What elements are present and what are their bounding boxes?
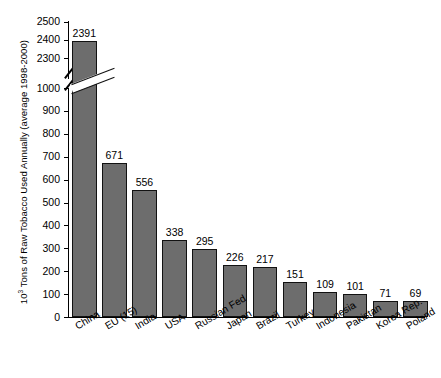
bar-chart: 103 Tons of Raw Tobacco Used Annually (a… xyxy=(0,0,441,378)
y-axis-tick-mark xyxy=(64,180,68,181)
y-axis-tick-mark xyxy=(64,58,68,59)
y-axis-line-lower xyxy=(68,88,69,318)
bar-value-label: 671 xyxy=(94,149,134,161)
y-axis-tick-label: 0 xyxy=(20,312,60,322)
y-axis-tick-label: 900 xyxy=(20,105,60,115)
bar-india[interactable] xyxy=(132,190,157,317)
y-axis-tick-mark xyxy=(64,40,68,41)
y-axis-tick-mark xyxy=(64,317,68,318)
bar-russian-fed[interactable] xyxy=(192,249,217,317)
y-axis-tick-mark xyxy=(64,157,68,158)
y-axis-tick-mark xyxy=(64,203,68,204)
y-axis-tick-label: 200 xyxy=(20,266,60,276)
y-axis-tick-label: 700 xyxy=(20,151,60,161)
y-axis-tick-mark xyxy=(64,22,68,23)
bar-usa[interactable] xyxy=(162,240,187,317)
bar-value-label: 295 xyxy=(185,235,225,247)
y-axis-tick-mark xyxy=(64,88,68,89)
y-axis-tick-label: 2400 xyxy=(20,34,60,44)
y-axis-tick-mark xyxy=(64,111,68,112)
bar-value-label: 556 xyxy=(124,176,164,188)
y-axis-tick-label: 100 xyxy=(20,289,60,299)
y-axis-tick-mark xyxy=(64,134,68,135)
bar-value-label: 2391 xyxy=(64,27,104,39)
bar-value-label: 217 xyxy=(245,253,285,265)
bar-eu-15[interactable] xyxy=(102,163,127,317)
y-axis-tick-label: 600 xyxy=(20,174,60,184)
y-axis-tick-label: 300 xyxy=(20,243,60,253)
y-axis-tick-mark xyxy=(64,271,68,272)
y-axis-tick-mark xyxy=(64,225,68,226)
y-axis-tick-label: 1000 xyxy=(20,83,60,93)
y-axis-tick-label: 500 xyxy=(20,197,60,207)
y-axis-tick-label: 2500 xyxy=(20,16,60,26)
y-axis-tick-mark xyxy=(64,294,68,295)
y-axis-tick-label: 2300 xyxy=(20,53,60,63)
y-axis-tick-label: 400 xyxy=(20,220,60,230)
y-axis-tick-mark xyxy=(64,248,68,249)
y-axis-tick-label: 800 xyxy=(20,128,60,138)
